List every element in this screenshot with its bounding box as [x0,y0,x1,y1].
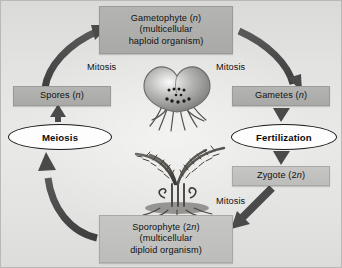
gametophyte-line-1: Gametophyte (n) [131,13,201,24]
label-mitosis-zygote-to-sporophyte: Mitosis [216,196,245,206]
sporophyte-line-1: Sporophyte (2n) [132,222,199,233]
arrow-zygote-to-sporophyte [231,188,272,229]
fertilization-label: Fertilization [256,132,312,143]
gametophyte-line-2: (multicellular [140,24,193,35]
label-mitosis-spores-to-gametophyte: Mitosis [87,62,116,72]
arrow-fertilization-to-zygote [273,151,290,165]
gametes-label: Gametes (n) [255,90,307,101]
spores-label: Spores (n) [40,90,84,101]
arrow-sporophyte-to-meiosis [38,152,97,238]
node-gametophyte[interactable]: Gametophyte (n) (multicellular haploid o… [99,6,233,54]
process-meiosis[interactable]: Meiosis [8,124,112,150]
sporophyte-line-3: diploid organism) [130,245,202,256]
node-sporophyte[interactable]: Sporophyte (2n) (multicellular diploid o… [99,215,233,263]
arrow-meiosis-to-spores [50,104,66,122]
arrow-gametophyte-to-gametes [239,31,302,92]
sporophyte-line-2: (multicellular [140,233,193,244]
arrow-gametes-to-fertilization [273,108,290,122]
process-fertilization[interactable]: Fertilization [231,124,337,150]
zygote-label: Zygote (2n) [257,170,305,181]
heart-shaped-prothallus-icon [133,60,221,132]
meiosis-label: Meiosis [42,132,78,143]
node-gametes[interactable]: Gametes (n) [232,86,330,106]
life-cycle-diagram: Gametophyte (n) (multicellular haploid o… [0,0,342,268]
node-spores[interactable]: Spores (n) [13,86,111,106]
gametophyte-line-3: haploid organism) [129,36,204,47]
node-zygote[interactable]: Zygote (2n) [232,166,330,186]
label-mitosis-gametophyte-to-gametes: Mitosis [216,62,245,72]
